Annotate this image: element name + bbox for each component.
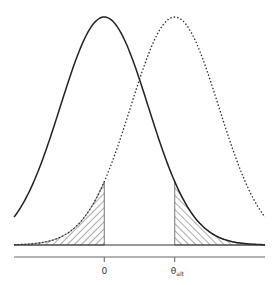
density-curves — [14, 17, 265, 245]
x-ticks: 0θalt — [101, 257, 184, 277]
x-tick-label: 0 — [101, 266, 107, 276]
shaded-regions — [14, 182, 265, 245]
null-distribution-curve — [14, 17, 265, 245]
right-tail-under-null — [175, 182, 265, 245]
left-tail-under-alternative — [14, 182, 104, 245]
x-tick-label: θalt — [171, 266, 185, 277]
chart: 0θalt — [0, 0, 278, 285]
alternative-distribution-curve — [14, 17, 265, 245]
